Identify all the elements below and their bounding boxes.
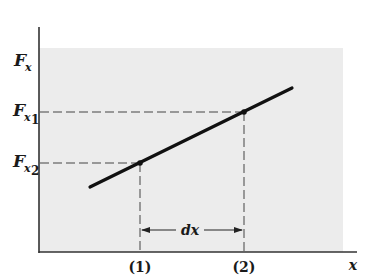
force-displacement-diagram: dx F x F x 1 F x 2 (1) (2) x: [0, 0, 370, 280]
y-label-fx1: F x 1: [12, 100, 39, 127]
y-label-fx2: F x 2: [12, 151, 39, 178]
y-label-fx: F x: [13, 50, 32, 74]
svg-text:1: 1: [31, 113, 39, 127]
point-2-marker: [241, 109, 247, 115]
svg-text:x: x: [24, 61, 32, 74]
x-axis-label: x: [348, 257, 358, 273]
svg-text:x: x: [23, 111, 31, 124]
svg-text:2: 2: [31, 164, 39, 178]
dx-label: dx: [181, 222, 200, 238]
x-tick-1: (1): [129, 259, 152, 275]
svg-text:x: x: [23, 162, 31, 175]
point-1-marker: [137, 160, 143, 166]
x-tick-2: (2): [233, 259, 256, 275]
